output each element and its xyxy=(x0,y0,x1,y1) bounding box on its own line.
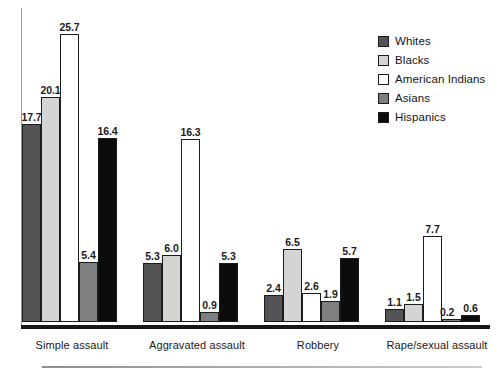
whites-swatch-icon xyxy=(378,36,389,47)
bar-value-label: 0.2 xyxy=(440,306,454,318)
bar-value-label: 5.4 xyxy=(81,249,95,261)
bar-group-simple-assault: 17.7 20.1 25.7 5.4 16.4 xyxy=(22,8,100,322)
bar-american-indians[interactable] xyxy=(302,293,321,322)
bar-value-label: 6.5 xyxy=(285,236,299,248)
legend-label: Whites xyxy=(395,35,431,47)
x-axis-line xyxy=(21,325,490,329)
bar-value-label: 20.1 xyxy=(40,84,60,96)
bar-value-label: 17.7 xyxy=(21,111,41,123)
legend-label: Blacks xyxy=(395,54,429,66)
category-label-aggravated-assault: Aggravated assault xyxy=(135,339,259,351)
bar-american-indians[interactable] xyxy=(60,34,79,322)
bar-value-label: 5.7 xyxy=(342,245,356,257)
legend-item-asians[interactable]: Asians xyxy=(378,89,485,107)
bar-value-label: 5.3 xyxy=(145,250,159,262)
legend-item-hispanics[interactable]: Hispanics xyxy=(378,108,485,126)
bar-whites[interactable] xyxy=(143,263,162,322)
bar-asians[interactable] xyxy=(79,262,98,322)
legend-label: Hispanics xyxy=(395,111,446,123)
category-label-robbery: Robbery xyxy=(272,339,364,351)
bar-hispanics[interactable] xyxy=(340,258,359,322)
bar-value-label: 2.4 xyxy=(266,282,280,294)
bar-whites[interactable] xyxy=(385,309,404,322)
american-indians-swatch-icon xyxy=(378,74,389,85)
blacks-swatch-icon xyxy=(378,55,389,66)
bar-whites[interactable] xyxy=(22,124,41,322)
hispanics-swatch-icon xyxy=(378,112,389,123)
category-label-simple-assault: Simple assault xyxy=(22,339,122,351)
bar-value-label: 1.1 xyxy=(387,296,401,308)
bar-value-label: 1.9 xyxy=(323,288,337,300)
legend-label: Asians xyxy=(395,92,430,104)
chart-figure: 17.7 20.1 25.7 5.4 16.4 5.3 xyxy=(0,0,503,377)
legend-label: American Indians xyxy=(395,73,485,85)
bar-blacks[interactable] xyxy=(41,97,60,322)
bar-asians[interactable] xyxy=(321,301,340,322)
asians-swatch-icon xyxy=(378,93,389,104)
legend-item-whites[interactable]: Whites xyxy=(378,32,485,50)
bar-group-robbery: 2.4 6.5 2.6 1.9 5.7 xyxy=(264,8,342,322)
bar-asians[interactable] xyxy=(200,312,219,322)
bar-blacks[interactable] xyxy=(283,249,302,322)
bar-hispanics[interactable] xyxy=(219,263,238,322)
legend-item-american-indians[interactable]: American Indians xyxy=(378,70,485,88)
bar-value-label: 2.6 xyxy=(304,280,318,292)
bar-asians[interactable] xyxy=(442,319,461,322)
bar-group-aggravated-assault: 5.3 6.0 16.3 0.9 5.3 xyxy=(143,8,221,322)
footer-divider xyxy=(42,366,482,368)
bar-blacks[interactable] xyxy=(404,304,423,322)
bar-hispanics[interactable] xyxy=(461,315,480,322)
bar-value-label: 7.7 xyxy=(425,223,439,235)
bar-value-label: 6.0 xyxy=(164,242,178,254)
bar-american-indians[interactable] xyxy=(181,139,200,322)
bar-value-label: 5.3 xyxy=(221,250,235,262)
legend-item-blacks[interactable]: Blacks xyxy=(378,51,485,69)
category-label-rape-sexual-assault: Rape/sexual assault xyxy=(372,339,502,351)
bar-whites[interactable] xyxy=(264,295,283,322)
bar-blacks[interactable] xyxy=(162,255,181,322)
legend: Whites Blacks American Indians Asians Hi… xyxy=(378,32,485,127)
bar-value-label: 16.3 xyxy=(180,126,200,138)
bar-value-label: 16.4 xyxy=(97,125,117,137)
bar-value-label: 1.5 xyxy=(406,291,420,303)
bar-value-label: 0.6 xyxy=(463,302,477,314)
bar-hispanics[interactable] xyxy=(98,138,117,322)
bar-value-label: 0.9 xyxy=(202,299,216,311)
bar-value-label: 25.7 xyxy=(59,21,79,33)
